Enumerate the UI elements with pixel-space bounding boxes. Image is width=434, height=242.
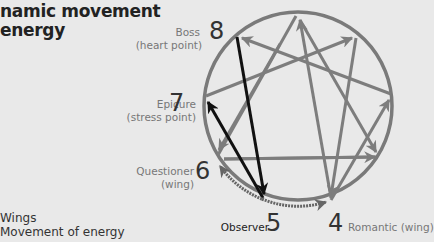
point-8-sublabel: (heart point) [130, 39, 202, 52]
point-5-name: Observer [221, 221, 269, 233]
point-7-number: 7 [169, 91, 184, 115]
point-4-label: Romantic (wing) [348, 221, 434, 234]
legend-item-wings: Wings [0, 211, 125, 225]
point-5-label: Observer [210, 221, 269, 234]
point-8-label: Boss (heart point) [130, 26, 200, 52]
point-8-name: Boss [130, 26, 200, 39]
enneagram-circle [204, 12, 392, 200]
point-8-number: 8 [209, 19, 224, 43]
point-6-label: Questioner (wing) [110, 165, 194, 191]
point-6-sublabel: (wing) [110, 178, 194, 191]
point-5-number: 5 [266, 211, 281, 235]
point-4-number: 4 [328, 211, 343, 235]
point-6-name: Questioner [110, 165, 194, 178]
point-6-number: 6 [195, 159, 210, 183]
point-4-name: Romantic (wing) [348, 221, 434, 233]
legend-item-movement: Movement of energy [0, 225, 125, 239]
legend: Wings Movement of energy [0, 211, 125, 239]
